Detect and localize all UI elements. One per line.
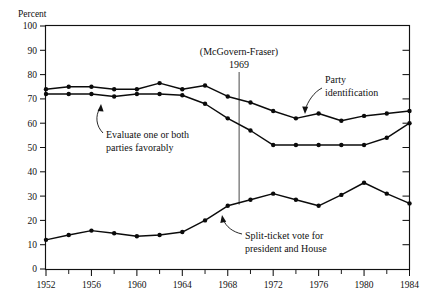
series-marker	[226, 94, 230, 98]
series-marker	[385, 111, 389, 115]
series-marker	[112, 87, 116, 91]
y-axis-ticks: 0102030405060708090100	[23, 21, 46, 274]
annotation-split-ticket-line2: president and House	[245, 243, 327, 254]
series-marker	[316, 204, 320, 208]
series-marker	[89, 228, 93, 232]
series-marker	[339, 119, 343, 123]
series-marker	[180, 230, 184, 234]
leader-arrow-evaluate-parties	[98, 104, 104, 112]
series-marker	[203, 83, 207, 87]
series-line-2	[46, 183, 410, 240]
series-marker	[180, 87, 184, 91]
series-marker	[248, 100, 252, 104]
y-tick-label: 40	[28, 167, 38, 177]
series-marker	[67, 85, 71, 89]
line-chart: Percent 0102030405060708090100 195219561…	[0, 0, 435, 300]
leader-arrow-party-identification	[302, 107, 308, 114]
y-tick-label: 10	[28, 240, 38, 250]
y-tick-label: 20	[28, 216, 38, 226]
series-marker	[339, 193, 343, 197]
series-marker	[44, 92, 48, 96]
series-marker	[180, 93, 184, 97]
series-marker	[385, 136, 389, 140]
series-marker	[44, 238, 48, 242]
x-tick-label: 1980	[355, 280, 374, 290]
series-marker	[339, 143, 343, 147]
series-marker	[385, 191, 389, 195]
series-marker	[226, 116, 230, 120]
annotation-split-ticket-line1: Split-ticket vote for	[245, 230, 324, 241]
x-tick-label: 1972	[264, 280, 283, 290]
series-marker	[89, 92, 93, 96]
series-marker	[248, 198, 252, 202]
series-marker	[362, 114, 366, 118]
annotation-mcgovern-fraser-line2: 1969	[229, 59, 249, 70]
annotation-evaluate-parties-line2: parties favorably	[106, 142, 173, 153]
series-marker	[362, 143, 366, 147]
series-marker	[135, 92, 139, 96]
x-tick-label: 1976	[309, 280, 328, 290]
x-tick-label: 1952	[37, 280, 56, 290]
series-marker	[407, 201, 411, 205]
plot-frame	[46, 26, 410, 270]
series-marker	[362, 181, 366, 185]
series-marker	[294, 143, 298, 147]
series-marker	[135, 87, 139, 91]
series-marker	[271, 109, 275, 113]
series-marker	[112, 231, 116, 235]
series-marker	[226, 204, 230, 208]
series-marker	[316, 111, 320, 115]
annotation-mcgovern-fraser-line1: (McGovern-Fraser)	[200, 46, 278, 58]
series-marker	[67, 92, 71, 96]
series-marker	[294, 116, 298, 120]
leader-line-evaluate-parties	[97, 108, 103, 133]
series-marker	[135, 234, 139, 238]
y-tick-label: 100	[23, 21, 38, 31]
series-marker	[294, 198, 298, 202]
series-marker	[271, 191, 275, 195]
series-marker	[248, 128, 252, 132]
y-tick-label: 80	[28, 70, 38, 80]
series-marker	[407, 121, 411, 125]
y-tick-label: 70	[28, 94, 38, 104]
leader-line-party-identification	[305, 88, 322, 110]
series-marker	[271, 143, 275, 147]
x-tick-label: 1956	[82, 280, 101, 290]
x-tick-label: 1964	[173, 280, 192, 290]
series-marker	[44, 87, 48, 91]
x-tick-label: 1984	[400, 280, 419, 290]
series-marker	[67, 233, 71, 237]
series-marker	[203, 218, 207, 222]
series-marker	[203, 102, 207, 106]
y-tick-label: 0	[32, 264, 37, 274]
y-tick-label: 60	[28, 119, 38, 129]
series-marker	[89, 85, 93, 89]
chart-container: Percent 0102030405060708090100 195219561…	[0, 0, 435, 300]
y-tick-label: 30	[28, 192, 38, 202]
series-marker	[157, 81, 161, 85]
leader-arrow-split-ticket	[220, 215, 226, 223]
x-tick-label: 1968	[218, 280, 237, 290]
y-axis-title: Percent	[18, 9, 47, 19]
series-marker	[157, 233, 161, 237]
x-tick-label: 1960	[127, 280, 146, 290]
annotation-party-identification-line2: identification	[325, 87, 378, 98]
series-marker	[407, 109, 411, 113]
x-axis-ticks: 195219561960196419681972197619801984	[37, 269, 420, 290]
annotation-evaluate-parties-line1: Evaluate one or both	[106, 129, 189, 140]
series-marker	[112, 94, 116, 98]
annotation-party-identification-line1: Party	[325, 74, 346, 85]
series-marker	[157, 92, 161, 96]
y-axis-ticks-right	[403, 50, 410, 244]
series-marker	[316, 143, 320, 147]
data-series-group	[44, 81, 412, 242]
y-tick-label: 50	[28, 143, 38, 153]
y-tick-label: 90	[28, 46, 38, 56]
